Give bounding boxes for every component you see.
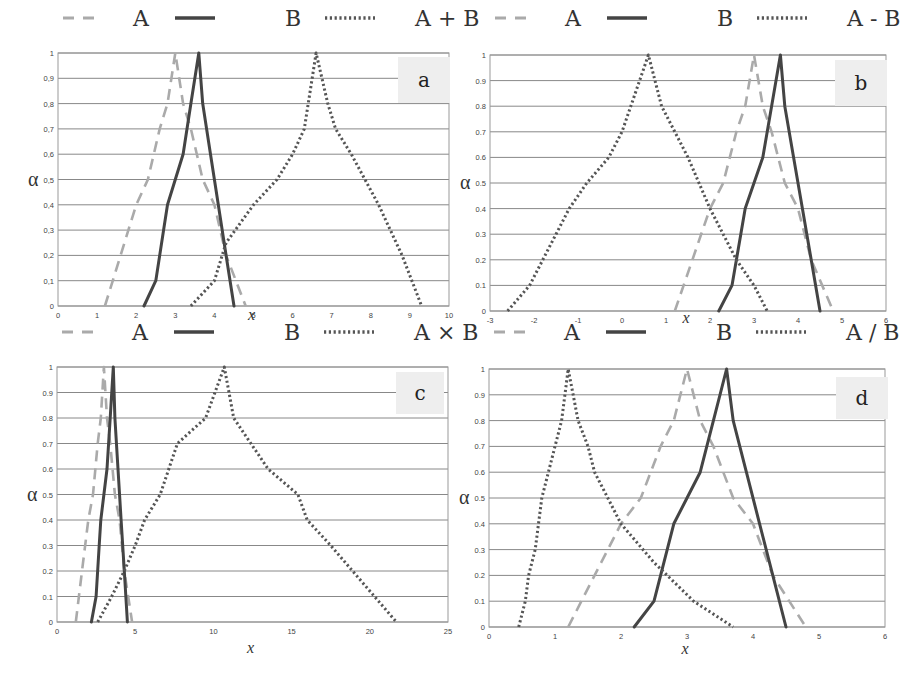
x-tick-label: 6 [883, 632, 887, 641]
y-tick-label: 0.3 [475, 546, 485, 555]
legend-label: B [716, 320, 732, 345]
x-tick-label: 5 [817, 632, 821, 641]
legend-label: A / B [845, 320, 899, 345]
x-tick-label: 2 [619, 632, 623, 641]
y-tick-label: 0.1 [475, 597, 485, 606]
y-tick-label: 1 [481, 365, 485, 374]
y-tick-label: 0.9 [475, 391, 485, 400]
y-tick-label: 0.7 [475, 442, 485, 451]
legend: ABA / B [494, 320, 899, 345]
legend-label: A [563, 320, 581, 345]
chart-panel-d: 00.10.20.30.40.50.60.70.80.910123456xαdA… [0, 0, 915, 678]
y-tick-label: 0.4 [475, 520, 485, 529]
panel-letter: d [856, 386, 869, 410]
y-tick-label: 0.2 [475, 571, 485, 580]
y-tick-label: 0.8 [475, 417, 485, 426]
y-tick-label: 0 [481, 623, 485, 632]
y-axis-label: α [459, 486, 470, 508]
x-tick-label: 0 [487, 632, 491, 641]
y-tick-label: 0.5 [475, 494, 485, 503]
x-tick-label: 1 [553, 632, 557, 641]
y-tick-label: 0.6 [475, 468, 485, 477]
x-tick-label: 4 [751, 632, 755, 641]
x-axis-label: x [680, 640, 688, 657]
